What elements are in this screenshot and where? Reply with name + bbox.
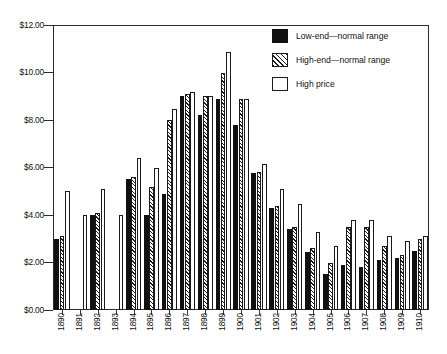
bar bbox=[382, 246, 387, 310]
bar-group bbox=[90, 25, 107, 310]
bar bbox=[323, 274, 328, 310]
bar-group bbox=[54, 25, 71, 310]
x-axis-label: 1892 bbox=[94, 313, 102, 331]
x-axis-label: 1898 bbox=[201, 313, 209, 331]
bar-group bbox=[412, 25, 429, 310]
bar bbox=[101, 189, 106, 310]
y-axis-tick bbox=[44, 215, 53, 216]
bar bbox=[316, 232, 321, 310]
bar bbox=[364, 227, 369, 310]
bar-chart: $0.00$2.00$4.00$6.00$8.00$10.00$12.00 Lo… bbox=[0, 0, 447, 354]
x-axis-label: 1907 bbox=[362, 313, 370, 331]
bar bbox=[60, 236, 65, 310]
bar-group bbox=[144, 25, 161, 310]
x-axis-label: 1905 bbox=[327, 313, 335, 331]
bar-group bbox=[180, 25, 197, 310]
bar-group bbox=[108, 25, 125, 310]
x-axis-label: 1902 bbox=[273, 313, 281, 331]
x-axis-label: 1904 bbox=[309, 313, 317, 331]
bar bbox=[351, 220, 356, 310]
legend-item-low-end: Low-end—normal range bbox=[272, 29, 390, 43]
legend-item-high-end: High-end—normal range bbox=[272, 53, 390, 67]
bar-group bbox=[198, 25, 215, 310]
y-axis-tick bbox=[44, 167, 53, 168]
legend-label-high-price: High price bbox=[296, 79, 335, 89]
bar bbox=[262, 164, 267, 310]
bar bbox=[298, 204, 303, 310]
y-axis-tick bbox=[44, 72, 53, 73]
x-axis-label: 1906 bbox=[344, 313, 352, 331]
bar bbox=[287, 229, 292, 310]
bar bbox=[310, 248, 315, 310]
bar bbox=[65, 191, 70, 310]
x-axis-label: 1909 bbox=[398, 313, 406, 331]
bar bbox=[244, 99, 249, 310]
legend-swatch-icon-high-price bbox=[272, 77, 288, 91]
bar bbox=[221, 73, 226, 311]
bar bbox=[54, 239, 59, 310]
bar bbox=[405, 241, 410, 310]
bar bbox=[185, 94, 190, 310]
bar bbox=[167, 120, 172, 310]
bar bbox=[328, 263, 333, 311]
bar bbox=[423, 236, 428, 310]
bar bbox=[216, 99, 221, 310]
x-axis-label: 1910 bbox=[416, 313, 424, 331]
bar bbox=[346, 227, 351, 310]
bar bbox=[90, 215, 95, 310]
bar bbox=[239, 99, 244, 310]
bar bbox=[233, 125, 238, 310]
bar-group bbox=[251, 25, 268, 310]
bar bbox=[190, 92, 195, 311]
bar-group bbox=[72, 25, 89, 310]
bar bbox=[292, 227, 297, 310]
bar bbox=[400, 255, 405, 310]
bar bbox=[412, 251, 417, 310]
legend-label-high-end: High-end—normal range bbox=[296, 55, 390, 65]
x-axis-label: 1890 bbox=[58, 313, 66, 331]
bar bbox=[377, 260, 382, 310]
bar bbox=[180, 96, 185, 310]
bar bbox=[208, 96, 213, 310]
legend-swatch-icon-low-end bbox=[272, 29, 288, 43]
x-axis-label: 1894 bbox=[130, 313, 138, 331]
legend-label-low-end: Low-end—normal range bbox=[296, 31, 388, 41]
bar bbox=[418, 239, 423, 310]
bar bbox=[251, 173, 256, 310]
y-axis-tick bbox=[44, 310, 53, 311]
x-axis-label: 1903 bbox=[291, 313, 299, 331]
bar bbox=[162, 194, 167, 310]
legend-swatch-icon-high-end bbox=[272, 53, 288, 67]
x-axis-label: 1901 bbox=[255, 313, 263, 331]
bar bbox=[137, 158, 142, 310]
bar bbox=[257, 172, 262, 310]
x-axis-label: 1900 bbox=[237, 313, 245, 331]
bar-group bbox=[216, 25, 233, 310]
bar-group bbox=[126, 25, 143, 310]
bar bbox=[387, 236, 392, 310]
bar bbox=[369, 220, 374, 310]
bar bbox=[341, 265, 346, 310]
bar bbox=[95, 213, 100, 310]
bar bbox=[119, 215, 124, 310]
x-axis-label: 1895 bbox=[147, 313, 155, 331]
legend: Low-end—normal range High-end—normal ran… bbox=[272, 29, 390, 91]
bar bbox=[144, 215, 149, 310]
bar-group bbox=[162, 25, 179, 310]
bar bbox=[131, 177, 136, 310]
x-axis-label: 1891 bbox=[76, 313, 84, 331]
bar bbox=[83, 215, 88, 310]
y-axis-tick bbox=[44, 25, 53, 26]
x-axis-label: 1908 bbox=[380, 313, 388, 331]
bar bbox=[359, 267, 364, 310]
bar bbox=[305, 252, 310, 310]
bar-group bbox=[395, 25, 412, 310]
bar bbox=[154, 168, 159, 311]
x-axis-label: 1897 bbox=[183, 313, 191, 331]
legend-item-high-price: High price bbox=[272, 77, 390, 91]
x-axis-label: 1896 bbox=[165, 313, 173, 331]
x-axis-label: 1893 bbox=[112, 313, 120, 331]
bar bbox=[198, 115, 203, 310]
bar bbox=[334, 246, 339, 310]
bar bbox=[126, 179, 131, 310]
